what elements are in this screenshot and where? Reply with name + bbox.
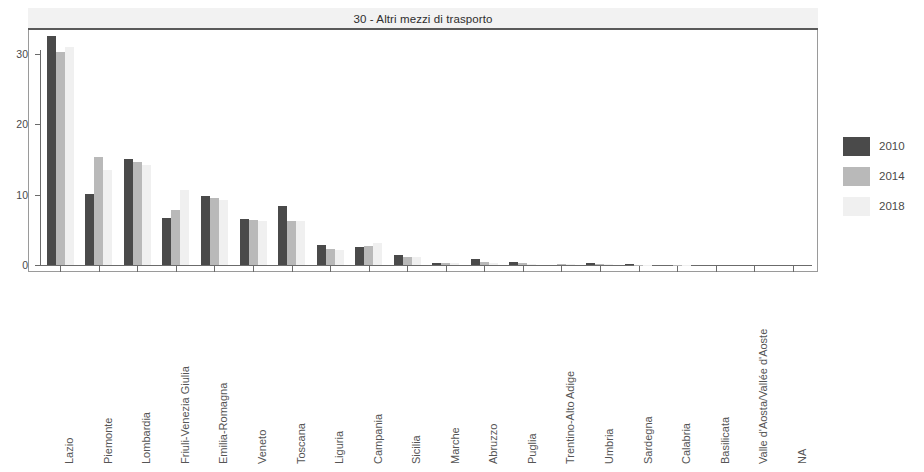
x-tick-label: Liguria <box>334 431 345 464</box>
bar-abruzzo-2010 <box>471 259 480 265</box>
facet-strip-title: 30 - Altri mezzi di trasporto <box>28 8 818 30</box>
x-tick-mark <box>407 266 408 272</box>
x-tick-label: Umbria <box>604 429 615 464</box>
y-tick-label: 0 <box>2 259 28 271</box>
x-tick-label: Valle d'Aosta/Vallée d'Aoste <box>758 329 769 464</box>
legend-swatch-2014 <box>843 167 870 186</box>
x-tick-mark <box>639 266 640 272</box>
bar-puglia-2018 <box>527 264 536 265</box>
x-tick-label: Trentino-Alto Adige <box>565 371 576 464</box>
x-tick-mark <box>99 266 100 272</box>
bar-campania-2010 <box>355 247 364 265</box>
y-tick-mark <box>35 54 40 55</box>
bar-sardegna-2010 <box>625 264 634 265</box>
bars-layer <box>41 36 812 265</box>
x-tick-label: Puglia <box>527 433 538 464</box>
x-tick-label: Toscana <box>296 423 307 464</box>
x-tick-mark <box>446 266 447 272</box>
bar-veneto-2018 <box>258 221 267 265</box>
bar-puglia-2010 <box>509 262 518 265</box>
x-tick-label: Sicilia <box>411 435 422 464</box>
legend-item-2014: 2014 <box>843 167 923 197</box>
bar-lazio-2014 <box>56 52 65 265</box>
x-tick-mark <box>330 266 331 272</box>
x-tick-label: Lombardia <box>141 412 152 464</box>
bar-toscana-2014 <box>287 221 296 265</box>
legend: 2010 2014 2018 <box>843 137 923 227</box>
x-tick-mark <box>677 266 678 272</box>
bar-umbria-2010 <box>586 263 595 265</box>
x-tick-label: Campania <box>373 414 384 464</box>
x-tick-mark <box>600 266 601 272</box>
x-tick-label: Veneto <box>257 430 268 464</box>
bar-friuli-venezia-giulia-2014 <box>171 210 180 265</box>
x-tick-mark <box>253 266 254 272</box>
x-tick-label: Basilicata <box>720 417 731 464</box>
bar-trentino-alto-adige-2014 <box>557 264 566 265</box>
y-tick-label: 30 <box>2 48 28 60</box>
bar-liguria-2014 <box>326 249 335 265</box>
bar-liguria-2010 <box>317 245 326 265</box>
x-tick-mark <box>137 266 138 272</box>
bar-umbria-2018 <box>604 264 613 265</box>
bar-sicilia-2014 <box>403 257 412 265</box>
y-tick-label: 20 <box>2 118 28 130</box>
legend-item-2018: 2018 <box>843 197 923 227</box>
bar-marche-2014 <box>441 263 450 265</box>
x-tick-mark <box>523 266 524 272</box>
x-tick-label: Abruzzo <box>488 424 499 464</box>
bar-veneto-2010 <box>240 219 249 265</box>
legend-label-2018: 2018 <box>879 200 905 212</box>
bar-lazio-2018 <box>65 47 74 265</box>
y-tick-label: 10 <box>2 189 28 201</box>
bar-abruzzo-2014 <box>480 262 489 265</box>
bar-marche-2018 <box>450 263 459 265</box>
legend-item-2010: 2010 <box>843 137 923 167</box>
x-tick-label: NA <box>797 449 808 464</box>
x-tick-mark <box>292 266 293 272</box>
legend-label-2010: 2010 <box>879 140 905 152</box>
bar-umbria-2014 <box>595 264 604 265</box>
legend-swatch-2018 <box>843 197 870 216</box>
bar-piemonte-2018 <box>103 170 112 265</box>
legend-swatch-2010 <box>843 137 870 156</box>
x-tick-mark <box>176 266 177 272</box>
bar-campania-2014 <box>364 246 373 265</box>
bar-piemonte-2010 <box>85 194 94 265</box>
bar-toscana-2010 <box>278 206 287 265</box>
bar-toscana-2018 <box>296 221 305 265</box>
bar-campania-2018 <box>373 243 382 265</box>
x-tick-label: Piemonte <box>103 418 114 464</box>
bar-abruzzo-2018 <box>489 263 498 265</box>
bar-lombardia-2010 <box>124 159 133 265</box>
bar-veneto-2014 <box>249 220 258 265</box>
bar-emilia-romagna-2018 <box>219 200 228 265</box>
bar-lazio-2010 <box>47 36 56 265</box>
x-tick-label: Calabria <box>681 423 692 464</box>
y-tick-mark <box>35 124 40 125</box>
x-tick-mark <box>369 266 370 272</box>
bar-piemonte-2014 <box>94 157 103 265</box>
x-tick-label: Sardegna <box>643 416 654 464</box>
bar-sicilia-2010 <box>394 255 403 265</box>
bar-liguria-2018 <box>335 250 344 265</box>
bar-puglia-2014 <box>518 263 527 265</box>
bar-lombardia-2014 <box>133 162 142 265</box>
x-tick-label: Lazio <box>64 438 75 464</box>
x-tick-mark <box>793 266 794 272</box>
legend-label-2014: 2014 <box>879 170 905 182</box>
x-tick-label: Marche <box>450 427 461 464</box>
y-axis-ticks <box>0 0 40 472</box>
x-tick-mark <box>214 266 215 272</box>
x-tick-mark <box>561 266 562 272</box>
x-tick-label: Emilia-Romagna <box>218 383 229 464</box>
x-tick-mark <box>716 266 717 272</box>
bar-emilia-romagna-2014 <box>210 198 219 265</box>
x-tick-mark <box>484 266 485 272</box>
chart-page: 30 - Altri mezzi di trasporto LazioPiemo… <box>0 0 924 472</box>
bar-trentino-alto-adige-2018 <box>566 264 575 265</box>
y-tick-mark <box>35 195 40 196</box>
x-tick-mark <box>754 266 755 272</box>
x-tick-label: Friuli-Venezia Giulia <box>180 366 191 464</box>
x-axis-labels: LazioPiemonteLombardiaFriuli-Venezia Giu… <box>41 274 812 472</box>
